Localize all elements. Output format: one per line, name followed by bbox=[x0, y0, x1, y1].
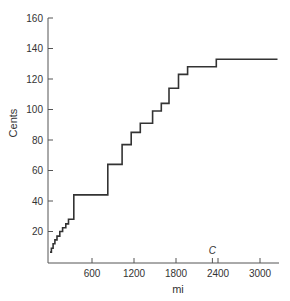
annotations: C bbox=[209, 245, 217, 263]
chart: 20406080100120140160 6001200180024003000… bbox=[0, 0, 290, 301]
axes bbox=[48, 18, 279, 263]
series bbox=[50, 59, 278, 252]
x-axis-title: mi bbox=[172, 283, 184, 295]
y-tick-label: 120 bbox=[26, 74, 43, 85]
y-tick-label: 60 bbox=[32, 165, 44, 176]
y-tick-label: 40 bbox=[32, 196, 44, 207]
y-tick-label: 140 bbox=[26, 43, 43, 54]
x-tick-label: 3000 bbox=[249, 268, 272, 279]
x-tick-label: 2400 bbox=[207, 268, 230, 279]
y-ticks: 20406080100120140160 bbox=[26, 13, 53, 238]
x-tick-label: 1800 bbox=[165, 268, 188, 279]
step-line-cost bbox=[50, 59, 278, 252]
x-tick-label: 1200 bbox=[123, 268, 146, 279]
y-axis-title: Cents bbox=[7, 108, 19, 137]
y-tick-label: 100 bbox=[26, 104, 43, 115]
x-tick-label: 600 bbox=[84, 268, 101, 279]
annotation-label-c: C bbox=[209, 245, 217, 256]
y-tick-label: 20 bbox=[32, 226, 44, 237]
x-ticks: 6001200180024003000 bbox=[84, 258, 272, 279]
y-tick-label: 80 bbox=[32, 135, 44, 146]
y-tick-label: 160 bbox=[26, 13, 43, 24]
